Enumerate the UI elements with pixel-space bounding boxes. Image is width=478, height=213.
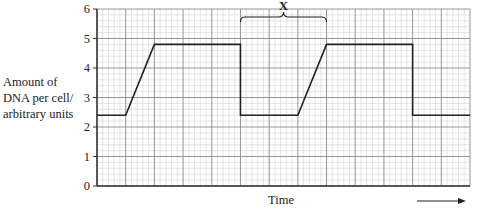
y-tick-label: 5 xyxy=(84,32,90,46)
time-arrow-icon xyxy=(417,198,466,204)
x-axis-label: Time xyxy=(268,193,294,207)
y-tick-label: 6 xyxy=(84,2,90,16)
y-ticks: 0123456 xyxy=(84,2,97,193)
y-tick-label: 4 xyxy=(84,61,91,75)
y-tick-label: 1 xyxy=(84,150,90,164)
y-tick-label: 0 xyxy=(84,179,90,193)
dna-chart: 0123456 X Time xyxy=(0,0,478,213)
y-tick-label: 3 xyxy=(84,91,90,105)
y-tick-label: 2 xyxy=(84,120,90,134)
grid xyxy=(97,9,470,186)
annotation-label: X xyxy=(279,0,289,13)
annotation-brace-x: X xyxy=(240,0,326,22)
